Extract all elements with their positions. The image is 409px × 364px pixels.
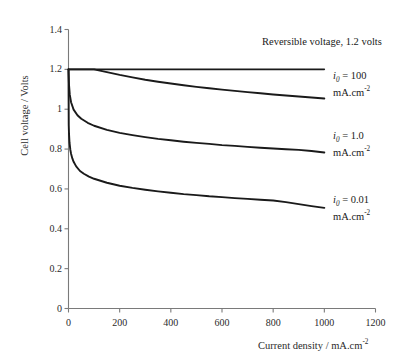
x-tick-label: 400: [163, 318, 178, 328]
y-tick-label: 1: [28, 104, 62, 114]
y-tick-label: 0.4: [28, 224, 62, 234]
x-axis-label-exponent: -2: [362, 338, 368, 346]
series-group: [69, 69, 325, 208]
annotation-line-1: i0 = 1.0: [333, 130, 370, 145]
series-line-i0-100: [69, 69, 325, 98]
y-tick-label: 0.8: [28, 144, 62, 154]
annotation-series-i0-100: i0 = 100mA.cm-2: [333, 70, 370, 98]
x-tick-label: 1200: [366, 318, 386, 328]
x-axis-label: Current density / mA.cm-2: [258, 338, 368, 351]
annotation-series-i0-1: i0 = 1.0mA.cm-2: [333, 130, 370, 158]
series-line-i0-0.01: [69, 69, 325, 208]
current-density-subscript: 0: [336, 76, 340, 84]
chart-figure: 00.20.40.60.811.21.402004006008001000120…: [0, 0, 409, 364]
annotation-line-2: mA.cm-2: [333, 209, 370, 223]
annotation-line-2: mA.cm-2: [333, 145, 370, 159]
current-density-subscript: 0: [336, 136, 340, 144]
y-axis-label: Cell voltage / Volts: [19, 46, 30, 186]
annotation-line-2: mA.cm-2: [333, 85, 370, 99]
annotation-series-i0-0-01: i0 = 0.01mA.cm-2: [333, 194, 370, 222]
series-line-i0-1.0: [69, 69, 325, 152]
x-tick-label: 800: [266, 318, 281, 328]
annotation-units-exponent: -2: [364, 145, 370, 153]
annotation-reversible-voltage: Reversible voltage, 1.2 volts: [262, 36, 382, 48]
x-tick-label: 600: [215, 318, 230, 328]
x-tick-label: 1000: [314, 318, 334, 328]
annotation-line-1: i0 = 100: [333, 70, 370, 85]
annotation-units-exponent: -2: [364, 209, 370, 217]
current-density-symbol: i0: [333, 194, 340, 205]
y-tick-label: 1.2: [28, 64, 62, 74]
annotation-units-exponent: -2: [364, 85, 370, 93]
y-tick-label: 0.2: [28, 264, 62, 274]
current-density-symbol: i0: [333, 130, 340, 141]
annotation-line-1: i0 = 0.01: [333, 194, 370, 209]
axes-group: [65, 30, 376, 313]
x-tick-label: 0: [66, 318, 71, 328]
y-tick-label: 0: [28, 304, 62, 314]
x-tick-label: 200: [112, 318, 127, 328]
y-tick-label: 1.4: [28, 25, 62, 35]
current-density-symbol: i0: [333, 70, 340, 81]
current-density-subscript: 0: [336, 200, 340, 208]
y-tick-label: 0.6: [28, 184, 62, 194]
